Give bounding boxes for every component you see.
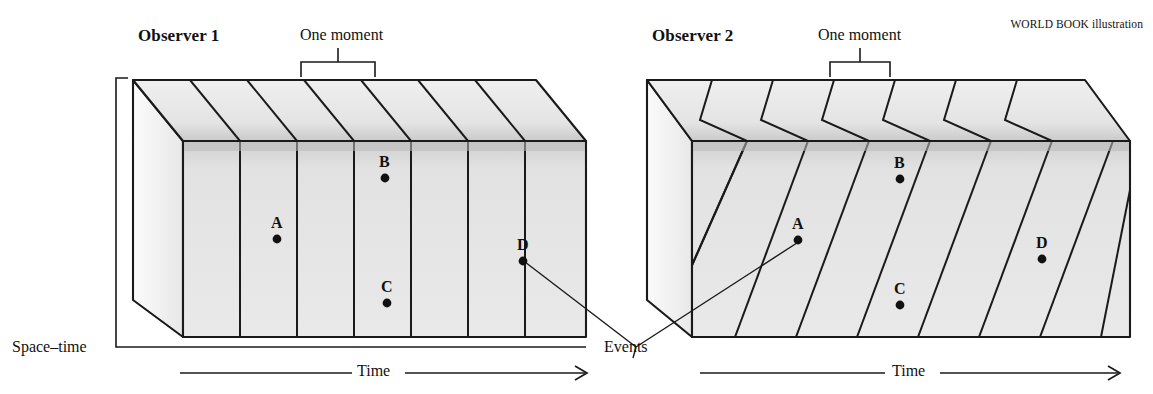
worldbook-credit: WORLD BOOK illustration	[1010, 18, 1143, 30]
event-dot-a-observer-1	[273, 235, 282, 244]
event-label-c-observer-1: C	[381, 278, 393, 296]
observer-2-time-label: Time	[892, 362, 925, 380]
event-dot-d-observer-2	[1038, 255, 1047, 264]
observer-1-title: Observer 1	[138, 26, 219, 46]
observer-1-block	[133, 80, 586, 337]
observer-2-shadow-band	[693, 142, 1129, 151]
event-dot-b-observer-1	[381, 174, 390, 183]
spacetime-block-diagram	[0, 0, 1153, 394]
spacetime-label: Space–time	[12, 338, 87, 356]
observer-1-moment-bracket	[301, 48, 375, 77]
event-dot-a-observer-2	[794, 236, 803, 245]
observer-2-front-face	[692, 141, 1130, 337]
observer-2-moment-bracket	[830, 48, 890, 77]
observer-2-title: Observer 2	[652, 26, 733, 46]
event-label-a-observer-1: A	[271, 214, 283, 232]
observer-1-time-label: Time	[357, 362, 390, 380]
observer-2-block	[647, 80, 1130, 337]
observer-2-moment-label: One moment	[818, 26, 901, 44]
event-label-d-observer-2: D	[1036, 234, 1048, 252]
observer-1-moment-label: One moment	[300, 26, 383, 44]
event-label-b-observer-2: B	[894, 154, 905, 172]
event-dot-b-observer-2	[896, 175, 905, 184]
event-label-b-observer-1: B	[379, 153, 390, 171]
event-dot-c-observer-1	[383, 299, 392, 308]
event-dot-d-observer-1	[519, 257, 528, 266]
event-label-a-observer-2: A	[792, 215, 804, 233]
event-label-d-observer-1: D	[517, 236, 529, 254]
event-dot-c-observer-2	[896, 301, 905, 310]
events-label: Events	[604, 338, 648, 356]
observer-2-top-face	[647, 80, 1130, 141]
event-label-c-observer-2: C	[894, 280, 906, 298]
illustration-canvas: WORLD BOOK illustration Observer 1 One m…	[0, 0, 1153, 394]
observer-1-shadow-band	[184, 142, 585, 151]
